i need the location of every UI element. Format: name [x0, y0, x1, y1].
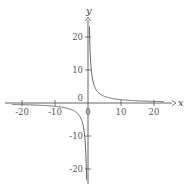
chart: -20-100102020100-10-20 x y [0, 0, 185, 188]
x-axis-arrow-icon [172, 101, 176, 106]
y-tick-label: 20 [72, 32, 83, 42]
axes [5, 17, 176, 184]
y-tick-label: -20 [69, 164, 83, 174]
x-tick-label: 10 [116, 107, 127, 117]
x-tick-label: 20 [149, 107, 160, 117]
plot-area: -20-100102020100-10-20 x y [0, 0, 185, 188]
y-tick-label: 10 [72, 65, 83, 75]
x-tick-label: -10 [48, 107, 62, 117]
y-tick-label: -10 [69, 131, 83, 141]
x-axis-label: x [178, 97, 184, 108]
y-axis-label: y [85, 5, 92, 16]
x-tick-label: 0 [85, 107, 90, 117]
curve [89, 26, 163, 101]
y-tick-label: 0 [78, 93, 83, 103]
x-tick-label: -20 [15, 107, 29, 117]
